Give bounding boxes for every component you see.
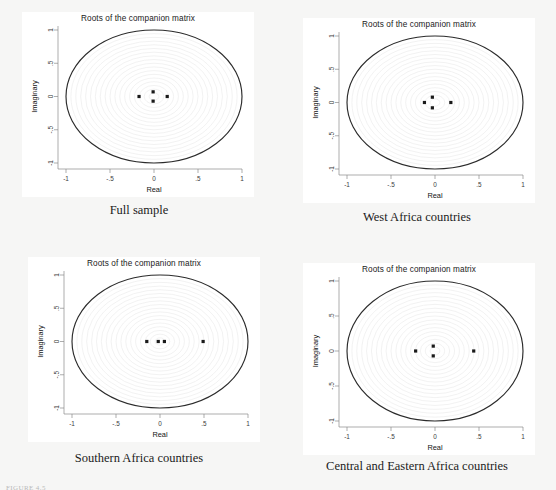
- panel-plot-frame: Roots of the companion matrix -1-.50.51-…: [303, 18, 535, 203]
- x-tick-label: .5: [476, 433, 482, 440]
- y-tick-label: .5: [328, 313, 335, 319]
- x-tick-label: -1: [63, 175, 69, 182]
- x-axis-label: Real: [427, 443, 443, 452]
- x-tick-label: -.5: [387, 433, 395, 440]
- panel-caption: West Africa countries: [278, 210, 556, 225]
- x-tick-label: -1: [344, 433, 350, 440]
- figure-panel-grid: Roots of the companion matrix -1-.50.51-…: [0, 0, 556, 490]
- y-tick-label: -1: [53, 405, 60, 411]
- y-axis-label: Imaginary: [30, 80, 39, 113]
- unit-circle: [347, 281, 523, 421]
- x-tick-label: -1: [344, 181, 350, 188]
- x-tick-label: 0: [152, 175, 156, 182]
- panel-west-africa: Roots of the companion matrix -1-.50.51-…: [278, 0, 556, 245]
- panel-central-eastern-africa: Roots of the companion matrix -1-.50.51-…: [278, 245, 556, 490]
- x-tick-label: 1: [246, 420, 250, 427]
- y-tick-label: .5: [47, 60, 54, 66]
- unit-circle: [72, 275, 248, 408]
- x-tick-label: 0: [158, 420, 162, 427]
- x-axis-label: Real: [427, 191, 443, 200]
- unit-circle-plot: -1-.50.51-1-.50.51RealImaginary: [303, 18, 535, 203]
- y-axis-label: Imaginary: [311, 334, 320, 367]
- y-tick-label: -1: [47, 160, 54, 166]
- y-tick-label: -1: [328, 166, 335, 172]
- y-tick-label: 1: [328, 34, 335, 38]
- root-point: [432, 345, 435, 348]
- y-tick-label: 0: [53, 339, 60, 343]
- root-point: [145, 340, 148, 343]
- root-points: [137, 90, 168, 103]
- y-tick-label: 0: [328, 349, 335, 353]
- panel-caption: Central and Eastern Africa countries: [278, 459, 556, 474]
- y-tick-label: 0: [328, 100, 335, 104]
- root-point: [431, 96, 434, 99]
- root-point: [414, 349, 417, 352]
- y-tick-label: 1: [47, 28, 54, 32]
- x-tick-label: -1: [69, 420, 75, 427]
- x-tick-label: -.5: [112, 420, 120, 427]
- y-axis-label: Imaginary: [36, 325, 45, 358]
- unit-circle-plot: -1-.50.51-1-.50.51RealImaginary: [22, 12, 254, 197]
- root-point: [431, 106, 434, 109]
- grid-circles: [77, 279, 243, 405]
- y-tick-label: -.5: [53, 371, 60, 379]
- unit-circle-plot: -1-.50.51-1-.50.51RealImaginary: [28, 257, 260, 442]
- x-tick-label: 1: [240, 175, 244, 182]
- panel-southern-africa: Roots of the companion matrix -1-.50.51-…: [0, 245, 278, 490]
- x-tick-label: 0: [433, 433, 437, 440]
- root-point: [137, 95, 140, 98]
- root-point: [166, 95, 169, 98]
- root-point: [163, 340, 166, 343]
- x-axis-label: Real: [146, 185, 162, 194]
- unit-circle: [347, 36, 523, 169]
- root-point: [423, 101, 426, 104]
- x-tick-label: -.5: [106, 175, 114, 182]
- x-tick-label: -.5: [387, 181, 395, 188]
- x-tick-label: 1: [521, 181, 525, 188]
- figure-number-note: FIGURE 4.5: [6, 484, 46, 490]
- root-point: [152, 90, 155, 93]
- y-tick-label: .5: [328, 66, 335, 72]
- x-tick-label: .5: [476, 181, 482, 188]
- panel-plot-frame: Roots of the companion matrix -1-.50.51-…: [28, 257, 260, 442]
- grid-circles: [352, 285, 518, 417]
- unit-circle-plot: -1-.50.51-1-.50.51RealImaginary: [303, 263, 535, 455]
- panel-caption: Southern Africa countries: [0, 451, 278, 466]
- y-tick-label: -.5: [328, 132, 335, 140]
- y-tick-label: -1: [328, 418, 335, 424]
- root-point: [157, 340, 160, 343]
- root-point: [432, 354, 435, 357]
- x-tick-label: .5: [201, 420, 207, 427]
- unit-circle: [66, 30, 242, 163]
- y-axis-label: Imaginary: [311, 86, 320, 119]
- x-tick-label: 1: [521, 433, 525, 440]
- y-tick-label: 1: [328, 279, 335, 283]
- y-tick-label: -.5: [47, 126, 54, 134]
- x-tick-label: .5: [195, 175, 201, 182]
- panel-plot-frame: Roots of the companion matrix -1-.50.51-…: [22, 12, 254, 197]
- grid-circles: [352, 40, 518, 166]
- y-tick-label: .5: [53, 305, 60, 311]
- root-points: [145, 340, 205, 343]
- panel-caption: Full sample: [0, 203, 278, 218]
- root-point: [152, 100, 155, 103]
- y-tick-label: 1: [53, 273, 60, 277]
- root-point: [449, 101, 452, 104]
- panel-plot-frame: Roots of the companion matrix -1-.50.51-…: [303, 263, 535, 455]
- y-tick-label: -.5: [328, 382, 335, 390]
- root-point: [202, 340, 205, 343]
- x-tick-label: 0: [433, 181, 437, 188]
- panel-full-sample: Roots of the companion matrix -1-.50.51-…: [0, 0, 278, 245]
- y-tick-label: 0: [47, 94, 54, 98]
- root-point: [472, 349, 475, 352]
- grid-circles: [71, 34, 237, 160]
- x-axis-label: Real: [152, 430, 168, 439]
